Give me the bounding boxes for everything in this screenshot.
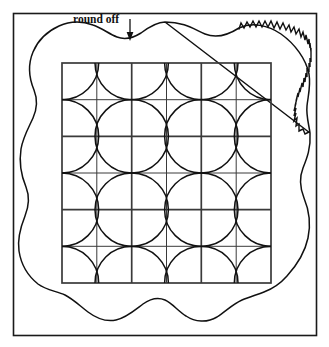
figure-canvas bbox=[0, 0, 329, 347]
figure-root: round off bbox=[0, 0, 329, 347]
